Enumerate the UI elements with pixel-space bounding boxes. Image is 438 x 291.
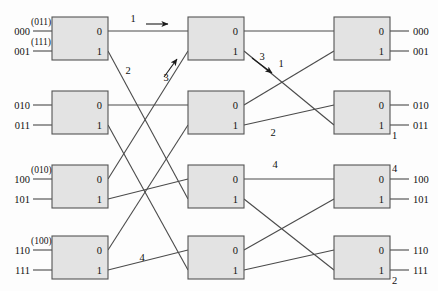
port-label-upper: 0 bbox=[97, 100, 102, 111]
path-number-tag: 4 bbox=[272, 159, 278, 170]
output-address-label: 001 bbox=[413, 46, 429, 57]
port-label-upper: 0 bbox=[233, 100, 238, 111]
path-number-tag: 1 bbox=[130, 13, 135, 24]
output-address-label: 110 bbox=[413, 245, 428, 256]
port-label-lower: 1 bbox=[97, 46, 102, 57]
port-label-lower: 1 bbox=[379, 194, 384, 205]
input-address-label: 000 bbox=[14, 26, 30, 37]
port-label-lower: 1 bbox=[97, 265, 102, 276]
port-label-upper: 0 bbox=[233, 26, 238, 37]
interconnect-wire bbox=[244, 51, 334, 105]
port-label-upper: 0 bbox=[379, 100, 384, 111]
output-address-label: 101 bbox=[413, 194, 429, 205]
input-address-label: 110 bbox=[15, 245, 30, 256]
arrow-up-right-stage2 bbox=[164, 59, 177, 77]
port-label-lower: 1 bbox=[233, 120, 238, 131]
io-stub-wires bbox=[33, 31, 409, 270]
output-path-tag: 2 bbox=[392, 275, 397, 286]
output-address-label: 100 bbox=[413, 174, 429, 185]
port-label-upper: 0 bbox=[97, 174, 102, 185]
input-address-label: 101 bbox=[14, 194, 30, 205]
input-annotation-label: (111) bbox=[31, 37, 51, 48]
input-address-label: 011 bbox=[15, 120, 30, 131]
input-address-label: 100 bbox=[14, 174, 30, 185]
port-label-upper: 0 bbox=[379, 245, 384, 256]
port-label-upper: 0 bbox=[233, 245, 238, 256]
interconnect-wire bbox=[108, 125, 188, 270]
input-address-label: 010 bbox=[14, 100, 30, 111]
output-address-label: 010 bbox=[413, 100, 429, 111]
port-label-upper: 0 bbox=[379, 174, 384, 185]
interconnect-wire bbox=[108, 51, 188, 179]
input-address-label: 001 bbox=[14, 46, 30, 57]
permutation-network-diagram: 010101010101010101010101 000(011)001(111… bbox=[0, 0, 438, 291]
stage1-to-stage2-wires bbox=[108, 31, 188, 270]
port-label-lower: 1 bbox=[233, 265, 238, 276]
port-label-lower: 1 bbox=[379, 120, 384, 131]
interconnect-wire bbox=[244, 105, 334, 125]
port-label-upper: 0 bbox=[379, 26, 384, 37]
input-annotation-label: (011) bbox=[31, 17, 51, 28]
stage2-to-stage3-wires bbox=[244, 31, 334, 270]
port-label-lower: 1 bbox=[97, 194, 102, 205]
port-label-lower: 1 bbox=[379, 265, 384, 276]
port-label-lower: 1 bbox=[379, 46, 384, 57]
interconnect-wire bbox=[244, 199, 334, 270]
interconnect-wire bbox=[108, 125, 188, 250]
output-path-tag: 4 bbox=[392, 163, 398, 174]
path-number-tag: 4 bbox=[139, 252, 145, 263]
output-address-label: 011 bbox=[413, 120, 428, 131]
switch-boxes bbox=[52, 17, 390, 279]
path-number-tag: 1 bbox=[278, 58, 283, 69]
path-number-tag: 3 bbox=[259, 51, 264, 62]
port-label-upper: 0 bbox=[97, 26, 102, 37]
input-annotation-label: (010) bbox=[31, 165, 52, 176]
network-canvas: 010101010101010101010101 000(011)001(111… bbox=[0, 0, 438, 291]
input-address-label: 111 bbox=[15, 265, 30, 276]
output-address-label: 111 bbox=[413, 265, 428, 276]
port-label-lower: 1 bbox=[233, 194, 238, 205]
output-address-label: 000 bbox=[413, 26, 429, 37]
interconnect-wire bbox=[108, 179, 188, 199]
path-number-tag: 2 bbox=[125, 65, 130, 76]
interconnect-wire bbox=[108, 250, 188, 270]
interconnect-wire bbox=[108, 51, 188, 199]
output-path-tag: 1 bbox=[392, 130, 397, 141]
port-label-lower: 1 bbox=[233, 46, 238, 57]
interconnect-wire bbox=[244, 199, 334, 250]
port-label-upper: 0 bbox=[97, 245, 102, 256]
path-number-tag: 2 bbox=[270, 127, 275, 138]
port-label-upper: 0 bbox=[233, 174, 238, 185]
input-annotation-label: (100) bbox=[31, 236, 52, 247]
port-label-lower: 1 bbox=[97, 120, 102, 131]
